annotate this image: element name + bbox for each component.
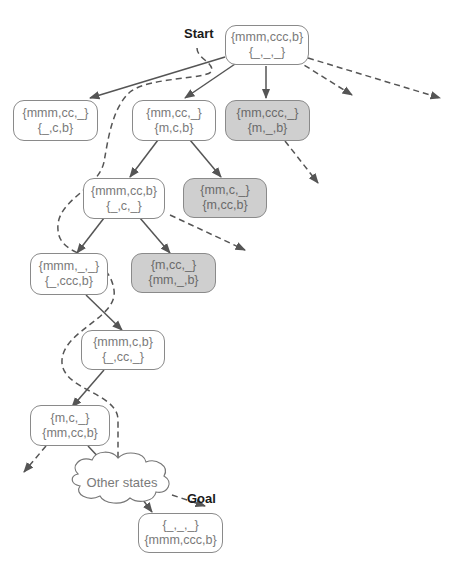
edge-n3-out (285, 141, 318, 183)
dead-state-node: {m,cc,_} {mm,_,b} (131, 253, 216, 293)
other-states-label: Other states (72, 475, 172, 490)
edge-n0-n1 (90, 57, 225, 98)
edge-n0-out2 (308, 58, 440, 98)
state-space-diagram: Start Goal Other states {mmm,ccc,b} {_,_… (0, 0, 464, 572)
node-left-bank: {mmm,c,b} (93, 335, 153, 350)
node-left-bank: {mmm,cc,_} (23, 106, 89, 121)
node-right-bank: {m,cc,b} (202, 198, 247, 213)
state-node: {mmm,_,_} {_,ccc,b} (30, 253, 108, 295)
node-left-bank: {m,c,_} (51, 411, 90, 426)
node-right-bank: {mm,cc,b} (42, 426, 98, 441)
edge-n4-n6 (77, 218, 104, 253)
node-left-bank: {mmm,cc,b} (91, 184, 157, 199)
node-right-bank: {mmm,ccc,b} (144, 533, 216, 548)
start-label: Start (184, 26, 214, 41)
goal-label: Goal (187, 491, 216, 506)
node-left-bank: {m,cc,_} (151, 258, 196, 273)
dead-state-node: {mm,ccc,_} {m,_,b} (225, 100, 310, 141)
dead-state-node: {mm,c,_} {m,cc,b} (183, 178, 267, 218)
state-node: {mmm,c,b} {_,cc,_} (81, 330, 165, 370)
node-right-bank: {m,_,b} (248, 121, 288, 136)
edge-n8-n9 (72, 370, 104, 407)
state-node: {mm,cc,_} {m,c,b} (132, 100, 216, 141)
edge-n4-n7 (140, 218, 170, 253)
edge-n4-out (170, 215, 245, 250)
node-right-bank: {_,_,_} (249, 45, 285, 60)
node-left-bank: {mm,c,_} (200, 183, 249, 198)
state-node: {mmm,cc,_} {_,c,b} (13, 100, 98, 141)
edge-n0-out1 (296, 60, 352, 95)
state-node: {mmm,cc,b} {_,c,_} (83, 178, 165, 219)
node-left-bank: {mmm,ccc,b} (231, 30, 303, 45)
node-right-bank: {_,cc,_} (102, 350, 144, 365)
node-right-bank: {_,c,b} (38, 121, 73, 136)
state-node-start: {mmm,ccc,b} {_,_,_} (225, 25, 309, 65)
edge-n9-out (24, 446, 46, 472)
node-right-bank: {mm,_,b} (148, 273, 198, 288)
node-left-bank: {mm,cc,_} (146, 106, 202, 121)
edge-n2-n4 (130, 140, 158, 177)
node-left-bank: {mmm,_,_} (39, 259, 99, 274)
state-node: {m,c,_} {mm,cc,b} (30, 405, 110, 446)
state-node-goal: {_,_,_} {mmm,ccc,b} (138, 513, 223, 553)
node-right-bank: {_,ccc,b} (45, 274, 93, 289)
node-right-bank: {m,c,b} (155, 121, 194, 136)
node-right-bank: {_,c,_} (106, 199, 141, 214)
node-left-bank: {mm,ccc,_} (237, 106, 299, 121)
edge-n2-n5 (190, 140, 221, 177)
edge-n6-n8 (86, 295, 122, 330)
node-left-bank: {_,_,_} (162, 518, 198, 533)
